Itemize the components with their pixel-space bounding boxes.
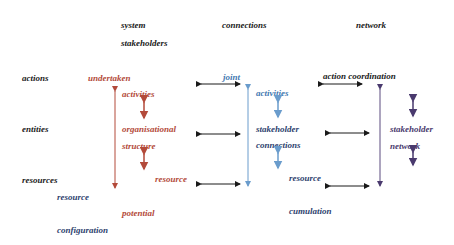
double-arrow-icon	[323, 84, 369, 186]
double-arrow-icon	[201, 84, 240, 184]
arrows-layer	[0, 0, 454, 245]
